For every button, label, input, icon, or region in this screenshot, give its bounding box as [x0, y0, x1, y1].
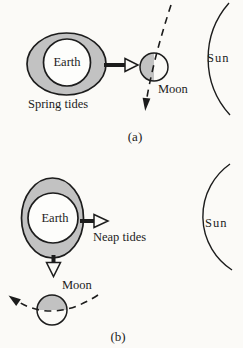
moon-label-b: Moon: [62, 278, 93, 292]
textbook-figure-page: Sun Earth Spring tides Moon (a) Sun: [0, 0, 243, 348]
panel-b-caption: (b): [110, 329, 125, 344]
panel-b: Sun Earth Neap tides Moon (b): [9, 164, 233, 344]
earth-moon-force-arrowhead-a: [125, 59, 138, 72]
sun-label-a: Sun: [207, 51, 229, 65]
neap-tides-label: Neap tides: [93, 230, 146, 244]
moon-shaded-half-a: [140, 53, 154, 81]
earth-moon-force-arrowhead-b: [47, 263, 61, 277]
panel-a: Sun Earth Spring tides Moon (a): [27, 3, 230, 144]
earth-label-b: Earth: [41, 211, 69, 225]
earth-sun-force-arrowhead-b: [94, 215, 108, 228]
moon-orbit-arrowhead-b: [9, 296, 21, 307]
earth-label-a: Earth: [53, 55, 81, 69]
moon-orbit-arrowhead-a: [143, 98, 151, 111]
panel-a-caption: (a): [128, 129, 142, 144]
moon-label-a: Moon: [158, 82, 189, 96]
spring-tides-label: Spring tides: [28, 97, 88, 111]
sun-label-b: Sun: [205, 216, 227, 230]
moon-shaded-half-b: [37, 295, 67, 310]
tides-diagram: Sun Earth Spring tides Moon (a) Sun: [0, 0, 243, 348]
